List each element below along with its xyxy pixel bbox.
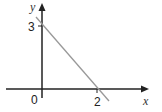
x-intercept-label: 2 bbox=[94, 95, 101, 109]
origin-label: 0 bbox=[31, 93, 38, 107]
coordinate-graph: y x 3 0 2 bbox=[0, 0, 162, 112]
y-intercept-label: 3 bbox=[28, 20, 35, 34]
y-axis-arrow-icon bbox=[39, 3, 46, 11]
x-axis-arrow-icon bbox=[141, 86, 149, 93]
x-axis-label: x bbox=[142, 94, 149, 108]
y-axis-label: y bbox=[29, 0, 36, 14]
